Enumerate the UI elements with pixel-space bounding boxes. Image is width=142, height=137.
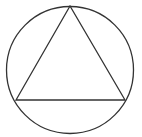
circumscribed-circle bbox=[7, 7, 134, 134]
inscribed-triangle-diagram bbox=[0, 0, 142, 137]
